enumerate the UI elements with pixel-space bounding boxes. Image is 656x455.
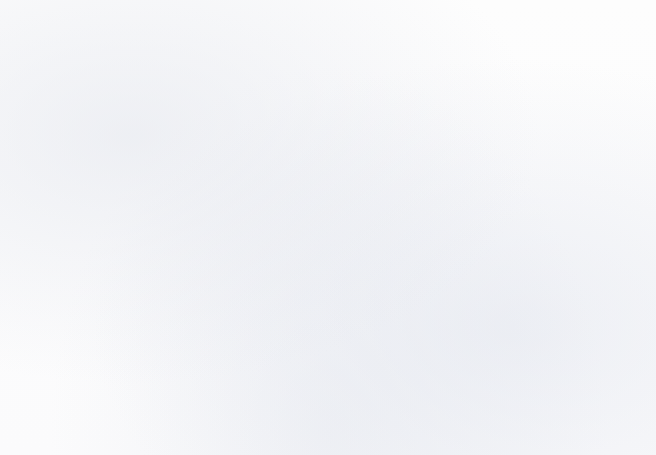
bar-blue[interactable] bbox=[127, 116, 167, 404]
chart-title: Favorite color bbox=[0, 26, 656, 48]
x-tick-mark-4 bbox=[538, 404, 539, 413]
x-tick-mark-1 bbox=[210, 404, 211, 413]
plot-area bbox=[98, 70, 646, 406]
x-tick-mark-2 bbox=[319, 404, 320, 413]
y-tick-mark-5 bbox=[93, 358, 100, 359]
x-tick-label-red: Red bbox=[317, 418, 427, 439]
y-axis-title: How many people like it bbox=[37, 90, 55, 390]
gridline-30 bbox=[100, 118, 646, 119]
y-tick-mark-30 bbox=[93, 118, 100, 119]
gridline-35 bbox=[100, 70, 646, 71]
bar-purple[interactable] bbox=[456, 289, 496, 404]
bar-red[interactable] bbox=[346, 279, 386, 404]
gridline-20 bbox=[100, 214, 646, 215]
x-tick-label-green: Green bbox=[208, 418, 318, 439]
y-tick-mark-10 bbox=[93, 310, 100, 311]
y-tick-mark-25 bbox=[93, 166, 100, 167]
gridline-25 bbox=[100, 166, 646, 167]
y-tick-mark-35 bbox=[93, 70, 100, 71]
x-tick-mark-3 bbox=[429, 404, 430, 413]
y-tick-mark-15 bbox=[93, 262, 100, 263]
y-tick-mark-0 bbox=[93, 406, 100, 407]
x-tick-label-blue: Blue bbox=[98, 418, 208, 439]
x-tick-label-black: Black bbox=[536, 418, 646, 439]
chart-screenshot: Favorite color How many people like it 0… bbox=[0, 0, 656, 455]
y-tick-mark-20 bbox=[93, 214, 100, 215]
gridline-15 bbox=[100, 262, 646, 263]
x-tick-label-purple: Purple bbox=[427, 418, 537, 439]
bar-green[interactable] bbox=[236, 241, 276, 404]
bar-black[interactable] bbox=[565, 311, 605, 404]
